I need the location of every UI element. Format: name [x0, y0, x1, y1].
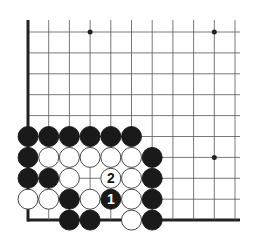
move-number-label: 1 [107, 191, 115, 207]
white-stone [101, 147, 121, 167]
star-point-icon [88, 30, 93, 35]
black-stone [18, 168, 38, 188]
black-stone [18, 127, 38, 147]
black-stone [59, 210, 79, 230]
white-stone [122, 168, 142, 188]
white-stone [59, 168, 79, 188]
black-stone [122, 127, 142, 147]
black-stone [101, 127, 121, 147]
white-stone [39, 147, 59, 167]
black-stone [142, 168, 162, 188]
black-stone [80, 127, 100, 147]
black-stone [80, 210, 100, 230]
white-stone [80, 147, 100, 167]
black-stone [39, 168, 59, 188]
black-stone [142, 210, 162, 230]
star-point-icon [212, 155, 217, 160]
star-point-icon [212, 30, 217, 35]
white-stone [59, 147, 79, 167]
white-stone [39, 189, 59, 209]
black-stone [142, 189, 162, 209]
white-stone [122, 147, 142, 167]
black-stone [18, 147, 38, 167]
black-stone [142, 147, 162, 167]
move-number-label: 2 [107, 170, 115, 186]
white-stone [122, 210, 142, 230]
go-board: 21 [0, 0, 262, 247]
black-stone [39, 127, 59, 147]
white-stone [18, 189, 38, 209]
black-stone [59, 127, 79, 147]
white-stone [122, 189, 142, 209]
white-stone [80, 189, 100, 209]
black-stone [59, 189, 79, 209]
